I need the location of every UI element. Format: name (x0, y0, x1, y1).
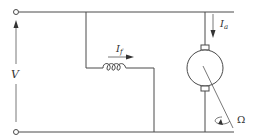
armature-bottom-brush (201, 86, 209, 91)
armature-current-arrowhead-icon (211, 30, 216, 38)
field-winding-inductor (103, 64, 127, 71)
field-current-arrowhead-icon (126, 55, 134, 60)
armature-top-brush (201, 45, 209, 50)
armature-rotor (187, 50, 223, 86)
dc-motor-circuit-diagram: V If Ω Ia (0, 0, 256, 139)
angular-speed-label: Ω (237, 114, 245, 125)
field-current-label: If (115, 43, 124, 56)
rotation-arrowhead (218, 119, 223, 125)
armature-current-label: Ia (219, 18, 228, 31)
voltage-arrowhead-icon (14, 20, 19, 28)
top-terminal (14, 10, 19, 15)
bottom-terminal (14, 130, 19, 135)
voltage-label: V (11, 68, 20, 81)
